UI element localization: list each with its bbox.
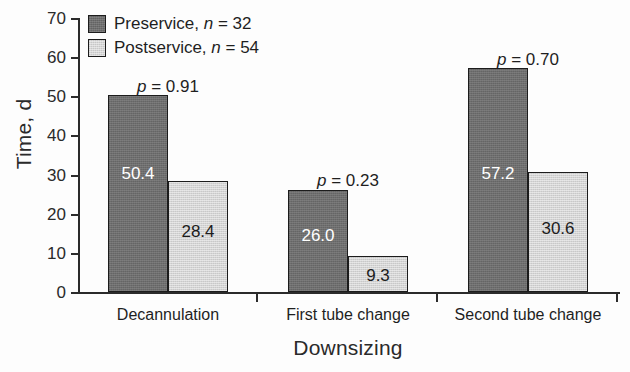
y-tick-label-0: 0 [57, 283, 66, 303]
bar-value-decannulation-postservice: 28.4 [169, 222, 227, 242]
p-value-first-tube-change: p = 0.23 [317, 171, 379, 191]
x-tick-3 [616, 294, 618, 302]
y-tick-10: 10 [71, 253, 78, 255]
y-tick-30: 30 [71, 175, 78, 177]
bar-second-tube-change-postservice[interactable]: 30.6 [528, 172, 588, 292]
y-axis-line [78, 18, 80, 294]
x-tick-1 [256, 294, 258, 302]
y-tick-label-50: 50 [47, 87, 66, 107]
x-category-label-second-tube-change: Second tube change [455, 306, 602, 324]
bar-value-second-tube-change-preservice: 57.2 [469, 164, 527, 184]
y-tick-20: 20 [71, 214, 78, 216]
bar-second-tube-change-preservice[interactable]: 57.2 [468, 68, 528, 292]
p-value-second-tube-change: p = 0.70 [497, 50, 559, 70]
y-tick-label-20: 20 [47, 205, 66, 225]
p-value-decannulation: p = 0.91 [137, 77, 199, 97]
bar-chart-figure: Time, d Downsizing Preservice, n = 32 Po… [0, 0, 630, 372]
plot-area: 70 60 50 40 30 20 10 0 50.4 2 [78, 18, 618, 292]
y-tick-0: 0 [71, 292, 78, 294]
x-axis-line [78, 292, 620, 294]
bar-first-tube-change-postservice[interactable]: 9.3 [348, 256, 408, 292]
y-axis-title: Time, d [12, 64, 36, 204]
y-tick-label-60: 60 [47, 48, 66, 68]
x-category-label-decannulation: Decannulation [117, 306, 219, 324]
x-tick-2 [436, 294, 438, 302]
y-tick-label-30: 30 [47, 166, 66, 186]
x-category-label-first-tube-change: First tube change [286, 306, 410, 324]
bar-value-first-tube-change-postservice: 9.3 [349, 266, 407, 286]
y-tick-label-70: 70 [47, 9, 66, 29]
y-tick-60: 60 [71, 57, 78, 59]
y-tick-70: 70 [71, 18, 78, 20]
bar-decannulation-postservice[interactable]: 28.4 [168, 181, 228, 292]
y-tick-50: 50 [71, 96, 78, 98]
bar-decannulation-preservice[interactable]: 50.4 [108, 95, 168, 292]
y-tick-label-40: 40 [47, 126, 66, 146]
bar-first-tube-change-preservice[interactable]: 26.0 [288, 190, 348, 292]
bar-value-second-tube-change-postservice: 30.6 [529, 219, 587, 239]
bar-value-decannulation-preservice: 50.4 [109, 164, 167, 184]
y-tick-40: 40 [71, 135, 78, 137]
x-axis-title: Downsizing [78, 336, 618, 360]
bar-value-first-tube-change-preservice: 26.0 [289, 226, 347, 246]
y-tick-label-10: 10 [47, 244, 66, 264]
